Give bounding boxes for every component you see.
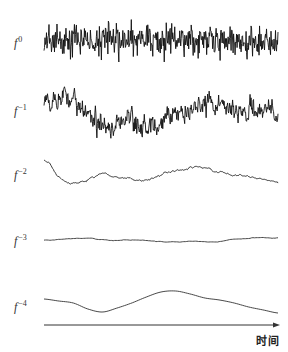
trace-f-1	[44, 87, 278, 139]
trace-f0	[44, 20, 278, 62]
time-axis	[44, 323, 280, 328]
trace-f-3	[44, 237, 278, 242]
arrow-head-icon	[273, 323, 280, 328]
time-axis-label: 时间	[256, 332, 280, 348]
noise-spectrum-diagram	[0, 0, 288, 352]
label-f-2: f−2	[14, 168, 27, 181]
trace-f-2	[44, 160, 278, 184]
label-f-4: f−4	[14, 300, 27, 313]
trace-f-4	[44, 291, 278, 313]
label-f-3: f−3	[14, 234, 27, 247]
label-f-1: f−1	[14, 104, 27, 117]
label-f0: f0	[14, 36, 22, 49]
